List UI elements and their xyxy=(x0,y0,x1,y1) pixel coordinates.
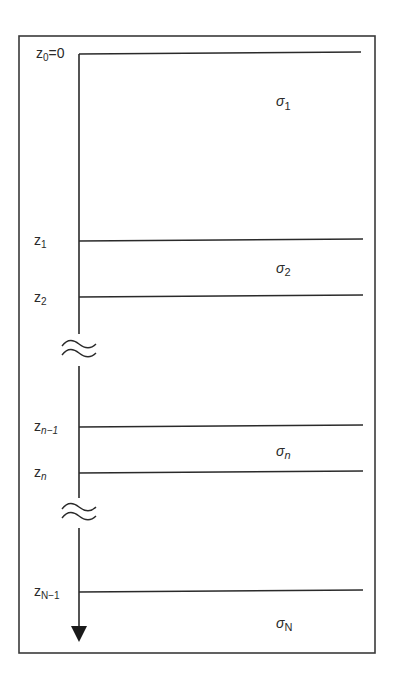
z-axis-arrowhead-icon xyxy=(71,626,87,642)
axis-break-mark-1 xyxy=(62,341,96,357)
layer-label-sigma2: σ2 xyxy=(276,260,291,278)
interface-line-zN-1 xyxy=(79,590,363,592)
layer-label-sigmaN: σN xyxy=(276,615,292,633)
axis-break-mark-2 xyxy=(62,504,96,520)
layer-label-sigman: σn xyxy=(276,443,291,461)
interface-label-zn: zn xyxy=(34,464,47,482)
interface-line-z2 xyxy=(79,295,363,297)
interface-label-z2: z2 xyxy=(34,289,47,307)
interface-line-z0 xyxy=(79,52,361,54)
interface-label-zN-1: zN−1 xyxy=(34,583,60,601)
interface-label-z0: z0=0 xyxy=(36,45,65,63)
interface-line-z1 xyxy=(79,239,363,241)
layer-label-sigma1: σ1 xyxy=(276,93,291,112)
interface-label-z1: z1 xyxy=(34,232,47,250)
interface-line-zn xyxy=(79,471,363,473)
layered-model-diagram: z0=0 z1 z2 zn−1 zn zN−1 σ1 σ2 σn σN xyxy=(0,0,393,690)
interface-line-zn-1 xyxy=(79,425,363,427)
diagram-frame xyxy=(19,36,375,653)
interface-label-zn-1: zn−1 xyxy=(34,418,58,436)
